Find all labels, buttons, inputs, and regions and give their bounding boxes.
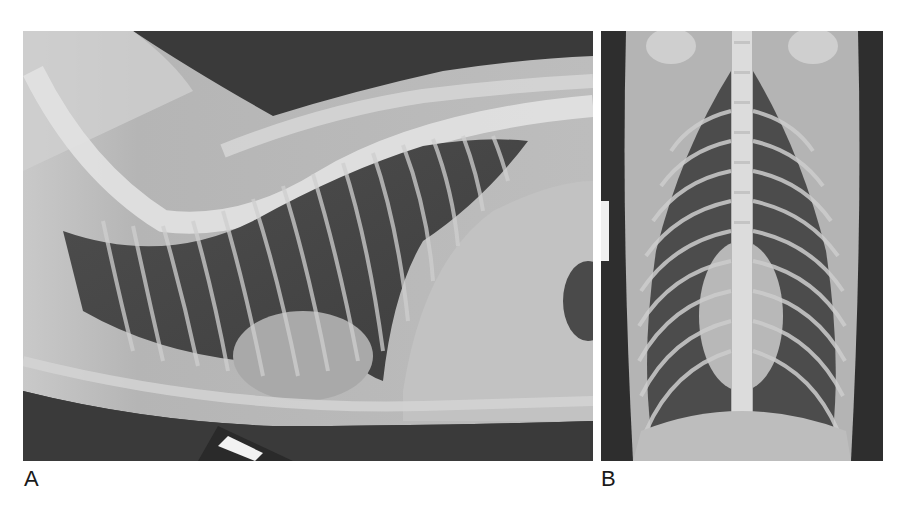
lateral-xray-image xyxy=(23,31,593,461)
ventrodorsal-xray-image xyxy=(601,31,883,461)
radiograph-ventrodorsal xyxy=(601,31,883,461)
panel-label-a: A xyxy=(24,468,39,490)
panel-label-b: B xyxy=(601,468,616,490)
radiograph-lateral xyxy=(23,31,593,461)
